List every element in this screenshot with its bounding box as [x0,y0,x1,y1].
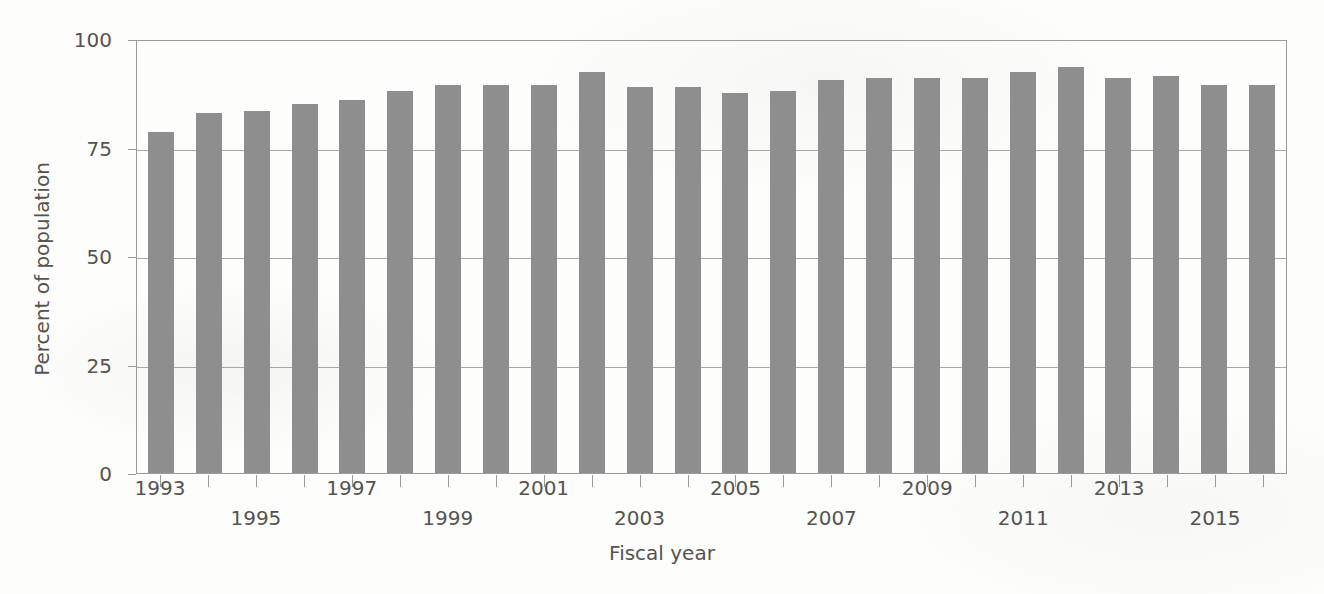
bar [818,80,844,473]
y-axis-tick-label: 25 [42,354,112,378]
y-axis-tick-mark [128,257,136,258]
x-axis-tick-mark [783,475,784,487]
y-axis-tick-mark [128,366,136,367]
x-axis-tick-label: 1999 [422,506,473,530]
x-axis-tick-label: 2003 [614,506,665,530]
bar [148,132,174,473]
bar [627,87,653,473]
x-axis-tick-label: 2009 [902,476,953,500]
x-axis-tick-mark [400,475,401,487]
y-axis-tick-mark [128,474,136,475]
bar [962,78,988,473]
plot-area [136,40,1287,474]
bar [1249,85,1275,473]
y-axis-tick-label: 75 [42,137,112,161]
bar [387,91,413,473]
x-axis-tick-label: 2015 [1190,506,1241,530]
x-axis-tick-label: 2007 [806,506,857,530]
bar [339,100,365,473]
bar [1201,85,1227,473]
bar [531,85,557,473]
x-axis-tick-mark [1071,475,1072,487]
bar-series [137,41,1286,473]
y-axis-tick-label: 50 [42,245,112,269]
y-axis-tick-label: 100 [42,28,112,52]
bar [483,85,509,473]
x-axis-tick-label: 2011 [998,506,1049,530]
x-axis-tick-mark [1167,475,1168,487]
x-axis-tick-label: 1995 [230,506,281,530]
x-axis-tick-mark [640,475,641,487]
x-axis-tick-label: 2005 [710,476,761,500]
bar [1058,67,1084,473]
bar [1105,78,1131,473]
x-axis-tick-mark [975,475,976,487]
x-axis-tick-mark [448,475,449,487]
x-axis-tick-mark [1023,475,1024,487]
y-axis-tick-label: 0 [42,462,112,486]
bar [244,111,270,473]
x-axis-tick-label: 2013 [1094,476,1145,500]
x-axis-title: Fiscal year [0,541,1324,565]
bar [435,85,461,473]
x-axis-tick-mark [208,475,209,487]
y-axis-tick-mark [128,149,136,150]
x-axis-tick-label: 1997 [326,476,377,500]
x-axis-tick-label: 2001 [518,476,569,500]
x-axis-tick-mark [256,475,257,487]
x-axis-tick-mark [496,475,497,487]
bar [579,72,605,473]
x-axis-tick-mark [879,475,880,487]
x-axis-tick-mark [1263,475,1264,487]
x-axis-tick-mark [592,475,593,487]
bar [1153,76,1179,473]
x-axis-tick-label: 1993 [135,476,186,500]
x-axis-tick-mark [304,475,305,487]
bar [196,113,222,473]
y-axis-tick-mark [128,40,136,41]
bar [292,104,318,473]
bar [675,87,701,473]
bar-chart-figure: Percent of population 0255075100 1993199… [0,0,1324,594]
x-axis-tick-mark [831,475,832,487]
bar [770,91,796,473]
bar [914,78,940,473]
x-axis-tick-mark [1215,475,1216,487]
bar [1010,72,1036,473]
x-axis-tick-mark [688,475,689,487]
bar [722,93,748,473]
bar [866,78,892,473]
